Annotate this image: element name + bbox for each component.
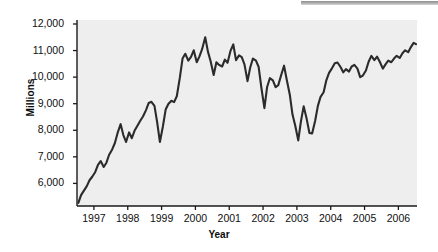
x-tick-label: 2006 [378, 212, 418, 224]
chart-figure: Millions Year 6,0007,0008,0009,00010,000… [0, 0, 438, 252]
x-axis-tick-labels: 1997199819992000200120022003200420052006 [0, 0, 438, 252]
